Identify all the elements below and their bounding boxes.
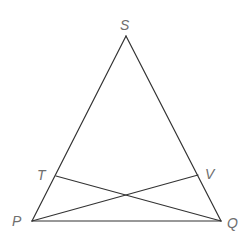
segment-TQ: [56, 176, 221, 221]
label-S: S: [120, 17, 130, 33]
segment-PS: [32, 36, 126, 221]
label-Q: Q: [227, 215, 238, 231]
label-P: P: [12, 213, 22, 229]
label-T: T: [37, 167, 47, 183]
diagram-svg: S T V P Q: [0, 0, 248, 244]
label-V: V: [205, 166, 216, 182]
segment-PV: [32, 175, 198, 221]
triangle-diagram: S T V P Q: [0, 0, 248, 244]
segment-SQ: [126, 36, 221, 221]
